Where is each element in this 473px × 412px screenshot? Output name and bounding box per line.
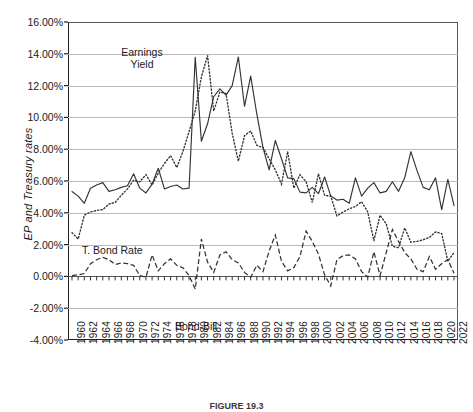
y-tick-label: 16.00%: [7, 17, 63, 27]
x-tick-label: 2018: [433, 321, 444, 344]
x-tick-label: 1986: [236, 321, 247, 344]
y-tick-label: 14.00%: [7, 49, 63, 59]
annotation-t-bond-rate: T. Bond Rate: [82, 244, 178, 256]
y-tick-label: -4.00%: [7, 335, 63, 345]
y-tick-label: 4.00%: [7, 208, 63, 218]
series-t-bond-rate: [72, 55, 454, 261]
x-tick-label: 1988: [249, 321, 260, 344]
y-tick-label: -2.00%: [7, 303, 63, 313]
y-tick-label: 0.00%: [7, 271, 63, 281]
x-tick-label: 2016: [421, 321, 432, 344]
y-tick-label: 6.00%: [7, 176, 63, 186]
x-tick-label: 2004: [347, 321, 358, 344]
x-tick-label: 1980: [199, 321, 210, 344]
x-tick-label: 2010: [384, 321, 395, 344]
chart-figure: EP and Treasury rates 16.00%14.00%12.00%…: [0, 0, 473, 412]
x-tick-label: 1976: [175, 321, 186, 344]
x-tick-label: 1996: [298, 321, 309, 344]
x-tick-label: 1960: [76, 321, 87, 344]
y-tick-label: 12.00%: [7, 81, 63, 91]
y-tick-label: 10.00%: [7, 112, 63, 122]
x-tick-label: 2020: [446, 321, 457, 344]
annotation-earnings-yield: Earnings Yield: [102, 46, 182, 70]
x-tick-label: 2002: [335, 321, 346, 344]
x-tick-label: 1968: [125, 321, 136, 344]
plot-area: Earnings Yield T. Bond Rate Bond-Bill: [68, 22, 458, 340]
x-tick-label: 2000: [322, 321, 333, 344]
x-tick-label: 1962: [88, 321, 99, 344]
y-tick-label: 8.00%: [7, 144, 63, 154]
x-tick-label: 2012: [396, 321, 407, 344]
x-tick-label: 1982: [212, 321, 223, 344]
x-tick-label: 2008: [372, 321, 383, 344]
y-axis-tick-labels: 16.00%14.00%12.00%10.00%8.00%6.00%4.00%2…: [5, 0, 63, 412]
figure-caption: FIGURE 19.3: [0, 401, 473, 412]
x-tick-label: 2006: [359, 321, 370, 344]
x-tick-label: 1992: [273, 321, 284, 344]
x-tick-label: 1972: [150, 321, 161, 344]
x-tick-label: 1978: [187, 321, 198, 344]
x-tick-label: 1994: [285, 321, 296, 344]
x-tick-label: 1970: [138, 321, 149, 344]
y-tick-label: 2.00%: [7, 240, 63, 250]
x-tick-label: 1990: [261, 321, 272, 344]
x-tick-label: 1964: [101, 321, 112, 344]
x-tick-label: 2014: [409, 321, 420, 344]
x-tick-label: 1966: [113, 321, 124, 344]
x-tick-label: 1984: [224, 321, 235, 344]
x-tick-label: 1974: [162, 321, 173, 344]
x-axis-tick-labels: 1960196219641966196819701972197419761978…: [68, 344, 458, 400]
x-tick-label: 1998: [310, 321, 321, 344]
x-tick-label: 2022: [458, 321, 469, 344]
